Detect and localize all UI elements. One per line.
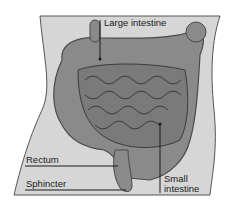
label-small-intestine-2: intestine <box>164 184 199 194</box>
hepatic-flexure <box>186 22 206 42</box>
appendix-top <box>90 20 100 42</box>
label-rectum: Rectum <box>26 155 59 165</box>
label-large-intestine: Large intestine <box>104 18 166 28</box>
label-sphincter: Sphincter <box>26 179 66 189</box>
